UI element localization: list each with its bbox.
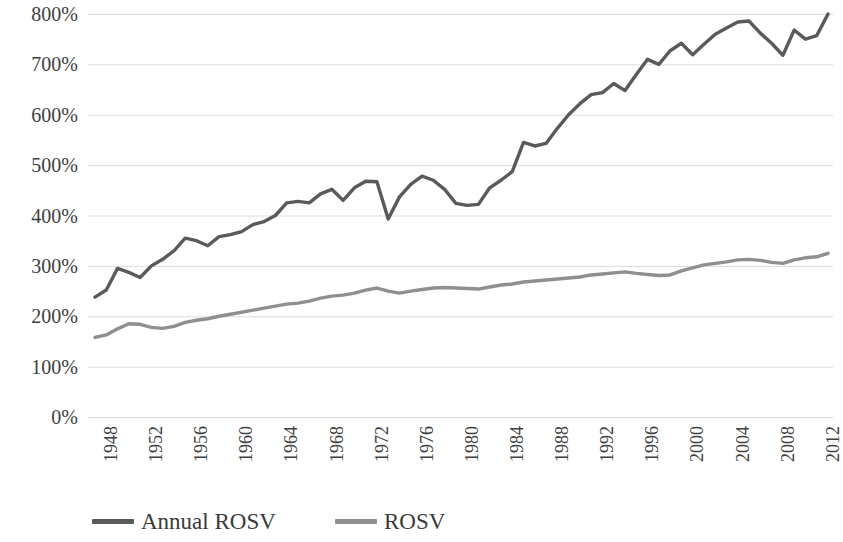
x-axis-tick-label: 1968 xyxy=(328,426,346,462)
y-axis-tick-label: 400% xyxy=(31,206,78,226)
legend-label: ROSV xyxy=(384,510,445,533)
x-axis-tick-label: 1952 xyxy=(147,426,165,462)
legend-line-swatch xyxy=(92,519,134,524)
legend-item[interactable]: ROSV xyxy=(335,510,445,533)
x-axis-tick-label: 2000 xyxy=(688,426,706,462)
y-axis-tick-label: 700% xyxy=(31,54,78,74)
x-axis-tick-label: 1996 xyxy=(643,426,661,462)
x-axis-tick-label: 1956 xyxy=(192,426,210,462)
y-axis-tick-label: 600% xyxy=(31,105,78,125)
plot-svg xyxy=(88,0,833,420)
x-axis-tick-label: 1964 xyxy=(282,426,300,462)
x-axis-tick-label: 1960 xyxy=(237,426,255,462)
legend-label: Annual ROSV xyxy=(141,510,276,533)
y-axis: 800%700%600%500%400%300%200%100%0% xyxy=(0,0,78,420)
x-axis-tick-label: 2012 xyxy=(824,426,842,462)
y-axis-tick-label: 300% xyxy=(31,256,78,276)
x-axis-tick-label: 2008 xyxy=(779,426,797,462)
x-axis-tick-label: 1976 xyxy=(418,426,436,462)
x-axis-tick-label: 2004 xyxy=(734,426,752,462)
series-line-1 xyxy=(95,14,828,297)
x-axis-tick-label: 1972 xyxy=(373,426,391,462)
legend-item[interactable]: Annual ROSV xyxy=(92,510,276,533)
x-axis-tick-label: 1988 xyxy=(553,426,571,462)
x-axis-tick-label: 1992 xyxy=(598,426,616,462)
y-axis-tick-label: 500% xyxy=(31,155,78,175)
legend-line-swatch xyxy=(335,519,377,524)
chart-legend: Annual ROSVROSV xyxy=(0,500,833,542)
x-axis: 1948195219561960196419681972197619801984… xyxy=(0,424,833,498)
y-axis-tick-label: 800% xyxy=(31,4,78,24)
plot-area xyxy=(88,0,833,420)
x-axis-tick-label: 1980 xyxy=(463,426,481,462)
y-axis-tick-label: 100% xyxy=(31,357,78,377)
x-axis-tick-label: 1984 xyxy=(508,426,526,462)
y-axis-tick-label: 200% xyxy=(31,306,78,326)
x-axis-tick-label: 1948 xyxy=(102,426,120,462)
